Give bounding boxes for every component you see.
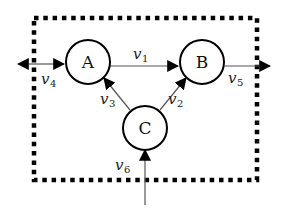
label-v3-sub: 3 [109,98,115,109]
label-v2-sub: 2 [177,98,183,109]
label-v5-var: v [228,69,237,87]
label-v1-var: v [133,45,142,63]
node-c-label: C [138,118,151,138]
label-v6-sub: 6 [124,164,130,175]
node-a: A [66,40,110,84]
label-v3: v 3 [100,90,115,109]
label-v2-var: v [168,90,177,108]
label-v6-var: v [115,156,124,174]
node-a-label: A [81,52,95,72]
node-b: B [180,40,224,84]
label-v5-sub: 5 [237,77,243,88]
label-v3-var: v [100,90,109,108]
label-v4-var: v [41,70,50,88]
label-v2: v 2 [168,90,183,109]
label-v4-sub: 4 [50,78,56,89]
label-v6: v 6 [115,156,130,175]
label-v1-sub: 1 [142,53,148,64]
node-c: C [123,106,167,150]
flow-diagram: A B C v 1 v 2 v 3 v 4 v 5 v 6 [0,0,289,208]
node-b-label: B [196,52,209,72]
label-v5: v 5 [228,69,243,88]
label-v1: v 1 [133,45,148,64]
label-v4: v 4 [41,70,56,89]
